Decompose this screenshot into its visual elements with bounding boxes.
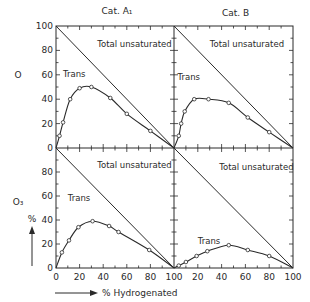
data-point — [195, 254, 199, 258]
x-tick-label: 20 — [74, 272, 86, 282]
total-unsaturated-label: Total unsaturated — [96, 160, 171, 170]
data-point — [177, 264, 181, 268]
total-unsaturated-label: Total unsaturated — [96, 39, 171, 49]
data-point — [78, 86, 82, 90]
x-tick-label: 40 — [216, 272, 228, 282]
x-tick-label: 60 — [121, 272, 133, 282]
data-point — [58, 134, 62, 138]
trans-label: Trans — [62, 69, 86, 79]
data-point — [227, 243, 231, 247]
panel-3: Total unsaturatedTrans — [56, 148, 174, 268]
col-title-b: Cat. B — [222, 8, 249, 18]
trans-label: Trans — [197, 236, 221, 246]
x-tick-label: 100 — [165, 272, 182, 282]
hydrogenation-chart: Total unsaturatedTransTotal unsaturatedT… — [0, 0, 310, 302]
y-tick-label: 100 — [36, 21, 53, 31]
panel-2: Total unsaturatedTrans — [174, 26, 293, 148]
y-tick-label: 40 — [42, 94, 54, 104]
y-tick-label: 0 — [47, 143, 53, 153]
total-unsaturated-label: Total unsaturated — [218, 162, 293, 172]
data-point — [246, 116, 250, 120]
data-point — [149, 129, 153, 133]
trans-curve — [56, 86, 174, 148]
data-point — [60, 251, 64, 255]
data-point — [108, 96, 112, 100]
data-point — [267, 254, 271, 258]
col-title-a1: Cat. A₁ — [102, 6, 133, 16]
trans-label: Trans — [67, 193, 91, 203]
y-tick-label: 60 — [42, 70, 54, 80]
data-point — [177, 134, 181, 138]
y-tick-label: 80 — [42, 167, 54, 177]
data-point — [246, 248, 250, 252]
data-point — [61, 121, 65, 125]
x-tick-label: 60 — [240, 272, 252, 282]
data-point — [179, 122, 183, 126]
row-label-o3: O₃ — [13, 197, 24, 207]
y-tick-label: 20 — [42, 119, 54, 129]
data-point — [125, 112, 129, 116]
data-point — [267, 130, 271, 134]
y-tick-label: 80 — [42, 45, 54, 55]
row-label-o: O — [14, 70, 21, 80]
data-point — [90, 85, 94, 89]
data-point — [68, 97, 72, 101]
x-tick-label: 100 — [284, 272, 301, 282]
arrow-right-icon — [90, 290, 98, 296]
data-point — [184, 260, 188, 264]
y-tick-label: 20 — [42, 239, 54, 249]
arrow-up-icon — [29, 226, 35, 234]
data-point — [206, 249, 210, 253]
data-point — [67, 239, 71, 243]
x-tick-label: 20 — [192, 272, 204, 282]
data-point — [192, 97, 196, 101]
x-tick-label: 80 — [145, 272, 157, 282]
trans-label: Trans — [177, 72, 201, 82]
data-point — [117, 230, 121, 234]
trans-curve — [56, 221, 174, 268]
data-point — [107, 224, 111, 228]
x-tick-label: 80 — [263, 272, 275, 282]
total-unsaturated-label: Total unsaturated — [209, 39, 284, 49]
data-point — [147, 248, 151, 252]
x-axis-label: % Hydrogenated — [102, 288, 177, 298]
y-tick-label: 40 — [42, 215, 54, 225]
y-tick-label: 60 — [42, 191, 54, 201]
data-point — [183, 110, 187, 114]
panel-4: Total unsaturatedTrans — [174, 148, 294, 268]
trans-curve — [174, 98, 293, 148]
data-point — [77, 225, 81, 229]
data-point — [227, 101, 231, 105]
y-axis-label: % — [28, 214, 37, 224]
data-point — [207, 97, 211, 101]
panel-1: Total unsaturatedTrans — [56, 26, 174, 148]
x-tick-label: 0 — [53, 272, 59, 282]
trans-curve — [174, 245, 293, 268]
x-tick-label: 40 — [97, 272, 109, 282]
data-point — [91, 219, 95, 223]
